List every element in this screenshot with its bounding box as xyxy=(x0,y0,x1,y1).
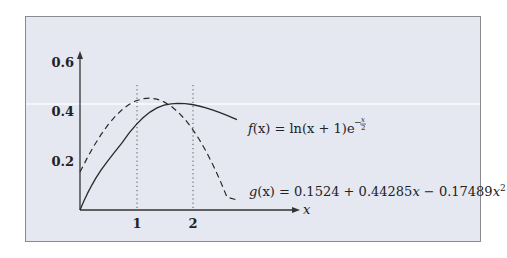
f-exp-den: 2 xyxy=(361,124,365,132)
chart-canvas: 0.6 0.4 0.2 1 2 x f(x) = ln(x + 1)e − x … xyxy=(0,0,507,258)
y-tick-0.6: 0.6 xyxy=(51,55,74,70)
y-tick-0.2: 0.2 xyxy=(51,154,74,169)
x-axis-arrow-icon xyxy=(292,207,300,213)
f-exp-num: x xyxy=(361,116,365,124)
x-tick-1: 1 xyxy=(132,216,141,231)
x-tick-2: 2 xyxy=(188,216,197,231)
f-curve xyxy=(80,103,237,210)
g-equation: g(x) = 0.1524 + 0.44285x − 0.17489x2 xyxy=(249,183,506,199)
y-tick-0.4: 0.4 xyxy=(51,104,74,119)
x-axis-label: x xyxy=(303,202,311,217)
g-curve xyxy=(80,98,237,200)
f-equation: f(x) = ln(x + 1)e xyxy=(247,121,355,136)
y-axis-arrow-icon xyxy=(77,51,83,59)
